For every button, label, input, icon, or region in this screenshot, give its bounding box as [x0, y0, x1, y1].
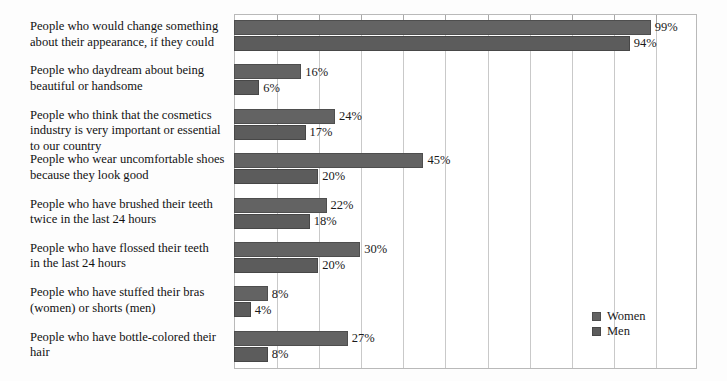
- bar-group: 24%17%: [234, 103, 697, 147]
- bar-rect-men: [234, 258, 318, 273]
- category-label-line: in the last 24 hours: [30, 256, 228, 272]
- bar-value-label: 94%: [634, 37, 657, 50]
- category-label: People who would change somethingabout t…: [30, 19, 228, 50]
- bar-value-label: 27%: [352, 332, 375, 345]
- bar-value-label: 4%: [255, 304, 272, 317]
- bar-value-label: 99%: [655, 21, 678, 34]
- bar-rect-women: [234, 286, 268, 301]
- bar-rect-men: [234, 302, 251, 317]
- category-label-line: People who have stuffed their bras: [30, 285, 228, 301]
- bar-men: 18%: [234, 214, 337, 229]
- category-label-line: beautiful or handsome: [30, 79, 228, 95]
- bar-value-label: 20%: [322, 170, 345, 183]
- bar-rect-women: [234, 64, 301, 79]
- bar-rect-women: [234, 153, 423, 168]
- bar-women: 99%: [234, 20, 678, 35]
- bar-value-label: 20%: [322, 259, 345, 272]
- category-label-column: People who would change somethingabout t…: [0, 14, 228, 369]
- category-label-line: People who have flossed their teeth: [30, 241, 228, 257]
- bar-value-label: 30%: [364, 243, 387, 256]
- bar-rect-men: [234, 169, 318, 184]
- bar-rect-women: [234, 20, 651, 35]
- legend-item-men[interactable]: Men: [592, 324, 646, 339]
- bar-rect-men: [234, 347, 268, 362]
- category-label-line: industry is very important or essential: [30, 123, 228, 139]
- bar-rect-men: [234, 80, 259, 95]
- category-label-line: hair: [30, 345, 228, 361]
- bar-men: 6%: [234, 80, 280, 95]
- legend-item-women[interactable]: Women: [592, 309, 646, 324]
- bar-women: 8%: [234, 286, 288, 301]
- legend-swatch-icon: [592, 312, 601, 321]
- bar-rect-women: [234, 242, 360, 257]
- bar-group: 30%20%: [234, 236, 697, 280]
- bar-value-label: 16%: [305, 66, 328, 79]
- bar-men: 20%: [234, 169, 345, 184]
- legend-label: Women: [607, 309, 646, 324]
- bar-rect-women: [234, 109, 335, 124]
- bar-women: 16%: [234, 64, 328, 79]
- bar-men: 8%: [234, 347, 288, 362]
- category-label-line: twice in the last 24 hours: [30, 212, 228, 228]
- category-label-line: People who have bottle-colored their: [30, 330, 228, 346]
- bar-rect-men: [234, 214, 310, 229]
- bar-rect-women: [234, 331, 348, 346]
- category-label-line: about their appearance, if they could: [30, 35, 228, 51]
- category-label: People who have bottle-colored theirhair: [30, 330, 228, 361]
- bar-group: 22%18%: [234, 192, 697, 236]
- bar-value-label: 17%: [310, 126, 333, 139]
- bar-group: 99%94%: [234, 14, 697, 58]
- category-label: People who have brushed their teethtwice…: [30, 197, 228, 228]
- category-label-line: because they look good: [30, 168, 228, 184]
- bar-value-label: 18%: [314, 215, 337, 228]
- category-label-line: People who daydream about being: [30, 63, 228, 79]
- bar-men: 20%: [234, 258, 345, 273]
- bar-men: 17%: [234, 125, 332, 140]
- category-label: People who daydream about beingbeautiful…: [30, 63, 228, 94]
- bar-value-label: 24%: [339, 110, 362, 123]
- bar-women: 27%: [234, 331, 375, 346]
- category-label: People who think that the cosmeticsindus…: [30, 108, 228, 155]
- bar-value-label: 45%: [427, 154, 450, 167]
- category-label: People who wear uncomfortable shoesbecau…: [30, 152, 228, 183]
- grouped-bar-chart: People who would change somethingabout t…: [0, 0, 727, 381]
- bar-women: 30%: [234, 242, 387, 257]
- bar-value-label: 8%: [272, 348, 289, 361]
- bar-group: 16%6%: [234, 58, 697, 102]
- bar-value-label: 8%: [272, 288, 289, 301]
- bar-rect-women: [234, 198, 327, 213]
- category-label-line: (women) or shorts (men): [30, 301, 228, 317]
- category-label-line: People who would change something: [30, 19, 228, 35]
- bar-value-label: 22%: [331, 199, 354, 212]
- category-label-line: People who have brushed their teeth: [30, 197, 228, 213]
- bar-women: 45%: [234, 153, 450, 168]
- chart-legend: WomenMen: [592, 309, 646, 339]
- bar-men: 94%: [234, 36, 657, 51]
- legend-label: Men: [607, 324, 630, 339]
- legend-swatch-icon: [592, 327, 601, 336]
- bar-women: 22%: [234, 198, 354, 213]
- bar-group: 45%20%: [234, 147, 697, 191]
- category-label-line: People who think that the cosmetics: [30, 108, 228, 124]
- category-label: People who have stuffed their bras(women…: [30, 285, 228, 316]
- bar-value-label: 6%: [263, 82, 280, 95]
- category-label: People who have flossed their teethin th…: [30, 241, 228, 272]
- category-label-line: People who wear uncomfortable shoes: [30, 152, 228, 168]
- bar-rect-men: [234, 36, 630, 51]
- bar-rect-men: [234, 125, 306, 140]
- bar-men: 4%: [234, 302, 272, 317]
- bar-women: 24%: [234, 109, 362, 124]
